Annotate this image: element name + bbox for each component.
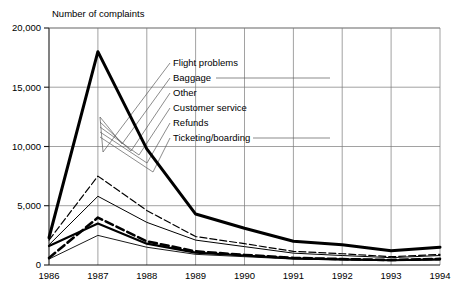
complaints-line-chart: 0 5,000 10,000 15,000 20,000 1986 1987 1… — [0, 0, 469, 300]
legend-label-other[interactable]: Other — [173, 87, 197, 98]
legend-label-customer-service[interactable]: Customer service — [173, 102, 247, 113]
xtick-label-1987: 1987 — [87, 270, 108, 281]
legend-label-baggage[interactable]: Baggage — [173, 72, 211, 83]
xtick-label-1986: 1986 — [38, 270, 59, 281]
ytick-label-0: 0 — [36, 259, 41, 270]
legend-label-refunds[interactable]: Refunds — [173, 117, 209, 128]
xtick-label-1989: 1989 — [185, 270, 206, 281]
xtick-label-1992: 1992 — [332, 270, 353, 281]
chart-axis-title: Number of complaints — [52, 8, 145, 19]
ytick-label-15000: 15,000 — [12, 82, 41, 93]
y-tick-marks — [44, 28, 49, 265]
legend-label-flight-problems[interactable]: Flight problems — [173, 57, 238, 68]
ytick-label-10000: 10,000 — [12, 141, 41, 152]
legend-leader-lines — [100, 63, 330, 172]
xtick-label-1991: 1991 — [283, 270, 304, 281]
chart-svg: 0 5,000 10,000 15,000 20,000 1986 1987 1… — [0, 0, 469, 300]
xtick-label-1993: 1993 — [381, 270, 402, 281]
xtick-label-1994: 1994 — [429, 270, 450, 281]
xtick-label-1988: 1988 — [136, 270, 157, 281]
ytick-label-5000: 5,000 — [17, 200, 41, 211]
legend-label-ticketing-boarding[interactable]: Ticketing/boarding — [173, 132, 250, 143]
ytick-label-20000: 20,000 — [12, 22, 41, 33]
xtick-label-1990: 1990 — [234, 270, 255, 281]
